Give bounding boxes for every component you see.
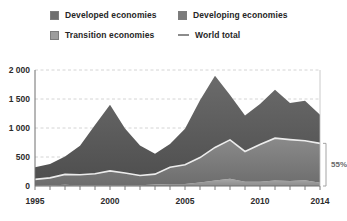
share-annotation-label: 55%	[331, 160, 347, 169]
square-swatch-icon	[178, 11, 187, 20]
x-axis-tick-labels: 19952000200520102014	[0, 196, 343, 212]
legend-label: Developed economies	[65, 10, 157, 20]
legend-label: Transition economies	[65, 30, 154, 40]
x-axis-tick-label: 2000	[101, 196, 120, 206]
legend-label: World total	[195, 30, 240, 40]
share-bracket	[323, 143, 326, 186]
legend-item-developed-economies: Developed economies	[50, 10, 157, 20]
line-swatch-icon	[178, 34, 189, 36]
legend-item-world-total: World total	[178, 30, 240, 40]
legend-item-developing-economies: Developing economies	[178, 10, 288, 20]
x-axis-tick-label: 2005	[176, 196, 195, 206]
x-axis-tick-label: 2014	[311, 196, 330, 206]
square-swatch-icon	[50, 11, 59, 20]
chart-legend: Developed economies Developing economies…	[0, 4, 343, 50]
legend-label: Developing economies	[193, 10, 288, 20]
square-swatch-icon	[50, 31, 59, 40]
x-axis-tick-label: 2010	[251, 196, 270, 206]
stacked-areas	[35, 76, 320, 186]
x-axis-ticks	[35, 186, 320, 190]
x-axis-tick-label: 1995	[26, 196, 45, 206]
legend-item-transition-economies: Transition economies	[50, 30, 154, 40]
